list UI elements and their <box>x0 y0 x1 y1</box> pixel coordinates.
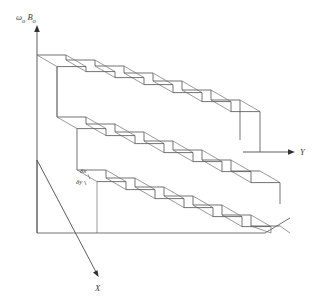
delta-y-label: δy <box>76 178 83 186</box>
delta-x-label: δx <box>80 167 87 175</box>
x-axis-label: X <box>94 283 101 293</box>
y-axis-label: Y <box>300 147 306 157</box>
staircase-row-front <box>77 129 290 233</box>
label-group: ωo Bo Y X δx δy <box>16 12 306 293</box>
front-row-depth-edge-4b <box>193 205 213 217</box>
y-axis-arrow-icon <box>288 149 295 154</box>
back-row-depth-edge-1b <box>66 60 86 72</box>
middle-row-depth-edge-6 <box>231 160 251 172</box>
base-floor-group <box>37 67 290 233</box>
middle-row-depth-edge-3b <box>144 141 164 153</box>
front-row-depth-edge-6 <box>251 215 271 227</box>
x-axis-line <box>37 160 96 272</box>
front-row-depth-edge-7 <box>280 226 290 233</box>
front-row-depth-edge-2 <box>135 178 155 190</box>
middle-row-depth-edge-1b <box>86 124 106 136</box>
back-row-depth-edge-3 <box>124 66 144 78</box>
middle-row-depth-edge-0 <box>57 117 77 129</box>
x-axis-arrow-icon <box>93 270 99 277</box>
front-row-depth-edge-4 <box>193 196 213 208</box>
staircase-row-back <box>37 55 260 152</box>
figure-root: ωo Bo Y X δx δy <box>0 0 315 300</box>
vertical-axis-label: ωo Bo <box>16 12 37 24</box>
b-subscript: o <box>33 17 37 24</box>
front-row-depth-edge-2b <box>135 187 155 199</box>
front-row-depth-edge-3 <box>164 187 184 199</box>
vertical-axis-arrow-icon <box>34 25 40 32</box>
back-row-depth-edge-5 <box>182 81 202 93</box>
middle-row-depth-edge-1 <box>86 117 106 129</box>
front-row-front-profile <box>97 182 271 227</box>
middle-row-depth-edge-6b <box>231 171 251 183</box>
front-row-depth-edge-3b <box>164 196 184 208</box>
delta-y-leader <box>85 181 87 185</box>
front-row-depth-edge-6b <box>251 226 271 233</box>
back-row-depth-edge-7 <box>240 100 260 112</box>
middle-row-front-profile <box>77 129 280 183</box>
back-row-depth-edge-5b <box>182 90 202 102</box>
back-row-front-profile <box>57 67 260 112</box>
middle-row-depth-edge-4b <box>173 150 193 162</box>
middle-row-depth-edge-4 <box>173 141 193 153</box>
front-row-top-profile <box>77 170 280 226</box>
middle-row-depth-edge-7 <box>260 171 280 183</box>
staircase-row-middle <box>57 67 280 204</box>
staircase-diagram-svg: ωo Bo Y X δx δy <box>0 0 315 300</box>
axis-group <box>34 25 295 277</box>
back-row-depth-edge-1 <box>66 55 86 67</box>
middle-row-depth-edge-3 <box>144 132 164 144</box>
back-row-depth-edge-3b <box>124 73 144 85</box>
back-row-depth-edge-0 <box>37 55 57 67</box>
